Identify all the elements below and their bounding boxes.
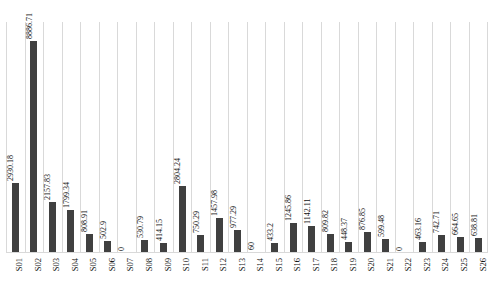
bar-slot: 530.79 — [136, 22, 155, 253]
category-tick: S25 — [451, 256, 470, 296]
bar[interactable]: 8886.71 — [30, 41, 37, 253]
category-tick-label: S07 — [126, 258, 135, 271]
category-tick: S21 — [377, 256, 396, 296]
category-tick-label: S25 — [460, 258, 469, 271]
bar-value-label: 1799.34 — [62, 182, 71, 208]
category-tick: S01 — [6, 256, 25, 296]
bar-value-label: 599.48 — [377, 215, 386, 237]
category-tick-label: S21 — [386, 258, 395, 271]
bar-value-label: 2157.83 — [43, 174, 52, 200]
bar[interactable]: 876.85 — [364, 232, 371, 253]
category-tick: S06 — [99, 256, 118, 296]
bar-value-label: 664.65 — [451, 213, 460, 235]
bar-value-label: 742.71 — [432, 211, 441, 233]
category-tick: S23 — [414, 256, 433, 296]
bar[interactable]: 750.29 — [197, 235, 204, 253]
bar[interactable]: 1799.34 — [67, 210, 74, 253]
bar-slot: 448.37 — [340, 22, 359, 253]
bar-slot: 1457.98 — [210, 22, 229, 253]
bar-slot: 664.65 — [451, 22, 470, 253]
bar[interactable]: 2157.83 — [49, 202, 56, 253]
category-tick-label: S04 — [71, 258, 80, 271]
bar-slot: 0 — [395, 22, 414, 253]
category-tick-label: S18 — [330, 258, 339, 271]
category-tick: S12 — [210, 256, 229, 296]
category-tick-label: S02 — [34, 258, 43, 271]
category-tick-label: S17 — [312, 258, 321, 271]
bar-slot: 463.16 — [414, 22, 433, 253]
bar-slot: 599.48 — [377, 22, 396, 253]
bar[interactable]: 664.65 — [457, 237, 464, 253]
bar-slot: 876.85 — [358, 22, 377, 253]
bar-slot: 433.2 — [265, 22, 284, 253]
bar[interactable]: 2930.18 — [12, 183, 19, 253]
bar-slot: 809.82 — [321, 22, 340, 253]
bar-slot: 977.29 — [228, 22, 247, 253]
category-tick-label: S14 — [256, 258, 265, 271]
category-tick: S22 — [395, 256, 414, 296]
bar-slot: 1245.86 — [284, 22, 303, 253]
bar-value-label: 638.81 — [470, 214, 479, 236]
bar-value-label: 809.82 — [321, 210, 330, 232]
bar[interactable]: 742.71 — [438, 235, 445, 253]
bar-slot: 1799.34 — [62, 22, 81, 253]
bar-value-label: 1245.86 — [284, 195, 293, 221]
category-tick-label: S22 — [404, 258, 413, 271]
bar[interactable]: 809.82 — [327, 234, 334, 253]
bar[interactable]: 1245.86 — [290, 223, 297, 253]
bar-value-label: 0 — [395, 247, 404, 251]
category-tick: S19 — [340, 256, 359, 296]
bar[interactable]: 1457.98 — [216, 218, 223, 253]
bar-value-label: 502.9 — [99, 221, 108, 239]
category-tick: S13 — [228, 256, 247, 296]
bar-slot: 502.9 — [99, 22, 118, 253]
category-tick-label: S12 — [219, 258, 228, 271]
bar-slot: 8886.71 — [25, 22, 44, 253]
category-tick: S16 — [284, 256, 303, 296]
bar-value-label: 1142.11 — [303, 198, 312, 223]
category-tick: S09 — [154, 256, 173, 296]
category-tick: S26 — [469, 256, 488, 296]
bar-series: 2930.188886.712157.831799.34808.91502.90… — [6, 22, 488, 253]
bar[interactable]: 638.81 — [475, 238, 482, 253]
bar-value-label: 2804.24 — [173, 158, 182, 184]
bar-value-label: 2930.18 — [6, 155, 15, 181]
plot-area: 2930.188886.712157.831799.34808.91502.90… — [6, 22, 488, 253]
category-tick-label: S03 — [52, 258, 61, 271]
bar-slot: 0 — [117, 22, 136, 253]
category-tick-label: S24 — [441, 258, 450, 271]
category-tick-label: S19 — [349, 258, 358, 271]
category-tick-label: S20 — [367, 258, 376, 271]
bar-slot: 808.91 — [80, 22, 99, 253]
bar[interactable]: 599.48 — [382, 239, 389, 253]
category-tick: S02 — [25, 256, 44, 296]
bar[interactable]: 808.91 — [86, 234, 93, 253]
bar[interactable]: 977.29 — [234, 230, 241, 253]
category-tick-label: S16 — [293, 258, 302, 271]
bar-value-label: 530.79 — [136, 216, 145, 238]
bar-value-label: 977.29 — [229, 206, 238, 228]
category-axis: S01S02S03S04S05S06S07S08S09S10S11S12S13S… — [6, 256, 488, 296]
category-tick-label: S26 — [479, 258, 488, 271]
category-tick: S05 — [80, 256, 99, 296]
category-tick-label: S09 — [164, 258, 173, 271]
category-tick: S11 — [191, 256, 210, 296]
category-tick: S08 — [136, 256, 155, 296]
bar-slot: 1142.11 — [303, 22, 322, 253]
axis-baseline — [6, 252, 488, 253]
bar-value-label: 8886.71 — [25, 13, 34, 39]
category-tick-label: S23 — [423, 258, 432, 271]
bar-slot: 60 — [247, 22, 266, 253]
category-tick: S15 — [265, 256, 284, 296]
category-tick: S04 — [62, 256, 81, 296]
bar-value-label: 60 — [247, 242, 256, 250]
bar[interactable]: 2804.24 — [179, 186, 186, 253]
category-tick-label: S08 — [145, 258, 154, 271]
bar-value-label: 876.85 — [358, 208, 367, 230]
category-tick: S03 — [43, 256, 62, 296]
bar[interactable]: 1142.11 — [308, 226, 315, 253]
category-tick: S17 — [303, 256, 322, 296]
category-tick-label: S05 — [89, 258, 98, 271]
bar-value-label: 1457.98 — [210, 190, 219, 216]
bar-value-label: 750.29 — [192, 211, 201, 233]
